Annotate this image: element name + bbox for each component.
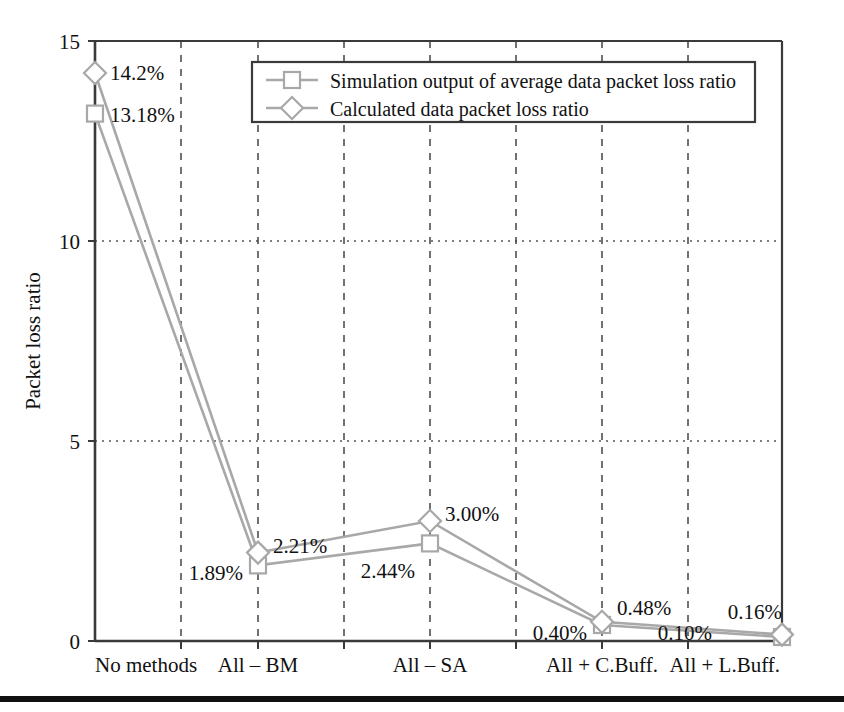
- y-axis-title: Packet loss ratio: [21, 272, 45, 410]
- value-label-simulation-1: 1.89%: [189, 561, 243, 585]
- value-label-calculated-0: 14.2%: [110, 61, 164, 85]
- value-label-calculated-4: 0.16%: [728, 600, 782, 624]
- legend-entry-simulation[interactable]: Simulation output of average data packet…: [266, 70, 736, 93]
- legend-label-simulation: Simulation output of average data packet…: [330, 70, 736, 93]
- value-label-simulation-3: 0.40%: [533, 621, 587, 645]
- data-point-simulation-2: [422, 535, 438, 551]
- value-label-calculated-3: 0.48%: [617, 596, 671, 620]
- value-label-simulation-2: 2.44%: [361, 559, 415, 583]
- page-bottom-rule: [0, 696, 844, 702]
- x-category-label-1: All – BM: [218, 653, 299, 677]
- x-category-label-4: All + L.Buff.: [669, 653, 780, 677]
- y-tick-label-0: 0: [70, 630, 81, 654]
- data-point-simulation-0: [87, 106, 103, 122]
- x-category-label-0: No methods: [95, 653, 197, 677]
- legend: Simulation output of average data packet…: [252, 62, 755, 122]
- value-label-calculated-2: 3.00%: [445, 502, 499, 526]
- legend-label-calculated: Calculated data packet loss ratio: [330, 98, 589, 121]
- x-category-label-2: All – SA: [393, 653, 469, 677]
- value-label-calculated-1: 2.21%: [273, 534, 327, 558]
- y-tick-label-5: 5: [70, 430, 81, 454]
- y-tick-label-15: 15: [59, 30, 80, 54]
- value-label-simulation-0: 13.18%: [110, 103, 175, 127]
- packet-loss-ratio-line-chart: 15 10 5 0 Packet loss ratio No methods A…: [0, 0, 844, 712]
- y-tick-label-10: 10: [59, 230, 80, 254]
- legend-marker-square-icon: [284, 72, 300, 88]
- x-category-label-3: All + C.Buff.: [546, 653, 658, 677]
- chart-figure: 15 10 5 0 Packet loss ratio No methods A…: [0, 0, 844, 712]
- value-label-simulation-4: 0.10%: [658, 621, 712, 645]
